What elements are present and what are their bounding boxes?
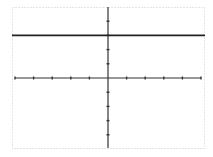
coordinate-plane: [0, 0, 213, 157]
axes: [15, 7, 201, 148]
